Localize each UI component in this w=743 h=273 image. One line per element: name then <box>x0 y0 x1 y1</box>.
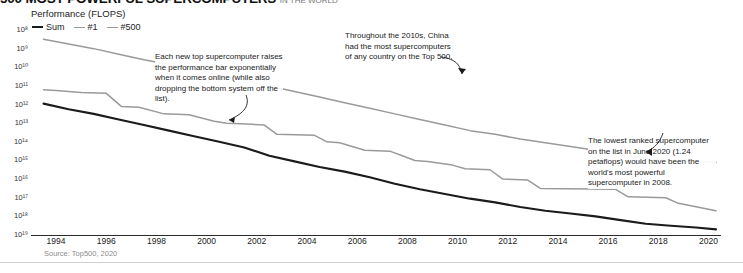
legend-swatch-rank500 <box>107 27 118 28</box>
bottom-divider <box>0 262 743 263</box>
x-axis-tick: 2006 <box>348 236 367 246</box>
annotation-top-supercomputer: Each new top supercomputer raises the pe… <box>155 52 283 105</box>
legend-swatch-sum <box>32 26 43 28</box>
x-axis-tick: 2012 <box>498 236 517 246</box>
x-axis-tick: 1994 <box>47 236 66 246</box>
y-axis-tick: 10¹¹ <box>4 82 28 90</box>
x-axis-tick: 2014 <box>548 236 567 246</box>
y-axis-tick: 10⁸ <box>4 26 28 34</box>
legend-swatch-rank1 <box>74 27 85 28</box>
x-axis-tick-labels: 1994199619982000200220042006200820102012… <box>31 236 721 250</box>
y-axis-tick: 10¹⁹ <box>4 231 28 239</box>
x-axis-tick: 2008 <box>398 236 417 246</box>
y-axis-tick: 10¹³ <box>4 119 28 127</box>
x-axis-tick: 2018 <box>649 236 668 246</box>
x-axis-tick: 2020 <box>699 236 718 246</box>
x-axis-tick: 1998 <box>147 236 166 246</box>
y-axis-title: Performance (FLOPS) <box>31 8 126 19</box>
y-axis-tick: 10¹⁶ <box>4 175 28 183</box>
annotation-china-2010s: Throughout the 2010s, China had the most… <box>345 31 457 63</box>
series-lines <box>44 39 716 229</box>
y-axis-tick: 10¹⁴ <box>4 138 28 146</box>
x-axis-tick: 2016 <box>599 236 618 246</box>
annotation-lowest-ranked: The lowest ranked supercomputer on the l… <box>588 136 716 189</box>
x-axis-tick: 2004 <box>298 236 317 246</box>
x-axis-tick: 1996 <box>97 236 116 246</box>
y-axis-tick: 10¹² <box>4 101 28 109</box>
page-title-suffix: IN THE WORLD <box>280 0 338 5</box>
y-axis-tick: 10¹⁵ <box>4 156 28 164</box>
source-note: Source: Top500, 2020 <box>44 249 117 258</box>
x-axis-tick: 2000 <box>197 236 216 246</box>
y-axis-tick: 10⁹ <box>4 45 28 53</box>
y-axis-tick: 10¹⁰ <box>4 63 28 71</box>
page-title: 500 MOST POWERFUL SUPERCOMPUTERS IN THE … <box>0 0 743 7</box>
page-title-text: 500 MOST POWERFUL SUPERCOMPUTERS <box>0 0 276 6</box>
y-axis-tick: 10¹⁷ <box>4 194 28 202</box>
x-axis-tick: 2002 <box>247 236 266 246</box>
y-axis-tick: 10¹⁸ <box>4 212 28 220</box>
x-axis-tick: 2010 <box>448 236 467 246</box>
